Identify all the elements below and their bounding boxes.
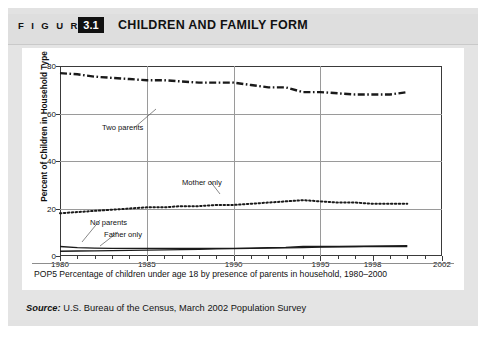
header-divider — [8, 44, 478, 45]
y-tick-label: 80 — [47, 62, 56, 71]
x-tick-mark-minor — [425, 256, 426, 259]
x-tick-label: 1990 — [225, 260, 243, 269]
chart-card: Percent of Children in Household Type 02… — [22, 48, 464, 290]
x-tick-mark-minor — [303, 256, 304, 259]
annotation-no-parents: No parents — [90, 218, 127, 227]
caption-divider — [32, 263, 454, 264]
source-label: Source: — [26, 303, 61, 313]
x-tick-label: 1998 — [364, 260, 382, 269]
figure-root: F I G U R E 3.1 CHILDREN AND FAMILY FORM… — [0, 0, 488, 342]
x-tick-mark-minor — [286, 256, 287, 259]
y-tick-label: 40 — [47, 157, 56, 166]
x-tick-mark-minor — [216, 256, 217, 259]
x-tick-mark-minor — [407, 256, 408, 259]
annotation-two-parents: Two parents — [102, 123, 143, 132]
x-tick-mark-minor — [251, 256, 252, 259]
x-tick-mark-minor — [182, 256, 183, 259]
x-tick-label: 2002 — [433, 260, 451, 269]
figure-number-badge: 3.1 — [78, 17, 104, 33]
figure-number: 3.1 — [78, 17, 104, 33]
annotation-mother-only: Mother only — [182, 178, 222, 187]
x-tick-mark-minor — [338, 256, 339, 259]
y-tick-label: 20 — [47, 204, 56, 213]
x-tick-mark-minor — [268, 256, 269, 259]
x-tick-label: 1985 — [138, 260, 156, 269]
x-tick-mark-minor — [164, 256, 165, 259]
source-line: Source: U.S. Bureau of the Census, March… — [26, 303, 306, 313]
x-tick-mark-minor — [355, 256, 356, 259]
figure-title: CHILDREN AND FAMILY FORM — [118, 18, 308, 32]
x-tick-mark-minor — [77, 256, 78, 259]
x-tick-mark-minor — [112, 256, 113, 259]
x-tick-mark-minor — [199, 256, 200, 259]
x-tick-label: 1980 — [51, 260, 69, 269]
x-tick-mark-minor — [390, 256, 391, 259]
annotation-leader-lines — [60, 66, 442, 256]
source-text: U.S. Bureau of the Census, March 2002 Po… — [61, 303, 306, 313]
y-tick-label: 60 — [47, 109, 56, 118]
x-tick-mark-minor — [129, 256, 130, 259]
chart-caption: POP5 Percentage of children under age 18… — [34, 269, 454, 279]
annotation-father-only: Father only — [104, 230, 142, 239]
plot-area: 020406080 198019851990199519982002 Two p… — [60, 66, 442, 256]
x-tick-mark-minor — [95, 256, 96, 259]
x-tick-label: 1995 — [312, 260, 330, 269]
